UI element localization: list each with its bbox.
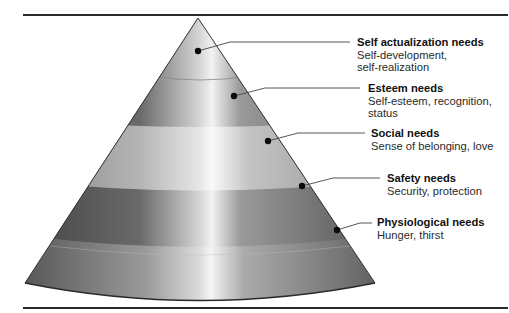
label-esteem: Esteem needs Self-esteem, recognition, s… bbox=[368, 82, 492, 120]
level-desc: self-realization bbox=[357, 61, 484, 74]
label-self-actualization: Self actualization needs Self-developmen… bbox=[357, 36, 484, 74]
label-physiological: Physiological needs Hunger, thirst bbox=[377, 216, 485, 241]
dot-icon bbox=[231, 93, 237, 99]
level-title: Safety needs bbox=[387, 172, 482, 185]
dot-icon bbox=[299, 183, 305, 189]
bottom-rule bbox=[23, 307, 508, 309]
level-desc: status bbox=[368, 107, 492, 120]
level-desc: Self-development, bbox=[357, 49, 484, 62]
level-title: Self actualization needs bbox=[357, 36, 484, 49]
level-desc: Self-esteem, recognition, bbox=[368, 95, 492, 108]
dot-icon bbox=[334, 227, 340, 233]
label-social: Social needs Sense of belonging, love bbox=[371, 127, 494, 152]
level-desc: Sense of belonging, love bbox=[371, 140, 494, 153]
label-safety: Safety needs Security, protection bbox=[387, 172, 482, 197]
level-desc: Security, protection bbox=[387, 185, 482, 198]
dot-icon bbox=[195, 48, 201, 54]
level-title: Esteem needs bbox=[368, 82, 492, 95]
level-desc: Hunger, thirst bbox=[377, 229, 485, 242]
level-title: Physiological needs bbox=[377, 216, 485, 229]
leader-physiological bbox=[334, 223, 372, 233]
level-title: Social needs bbox=[371, 127, 494, 140]
dot-icon bbox=[265, 138, 271, 144]
